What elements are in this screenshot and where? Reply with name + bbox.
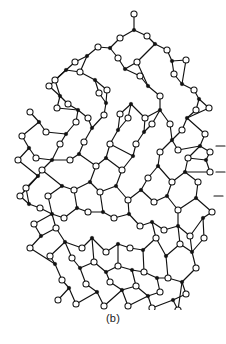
oxygen-atom <box>43 129 49 135</box>
oxygen-atom <box>179 127 185 133</box>
silicon-atom <box>116 242 120 246</box>
silicon-atom <box>146 84 150 88</box>
silicon-atom <box>27 146 31 150</box>
oxygen-atom <box>202 131 208 137</box>
silicon-atom <box>60 184 64 188</box>
silicon-atom <box>132 28 136 32</box>
oxygen-atom <box>125 115 131 121</box>
bond <box>42 170 62 186</box>
oxygen-atom <box>81 139 87 145</box>
oxygen-atom <box>183 291 189 297</box>
oxygen-atom <box>117 111 123 117</box>
oxygen-atom <box>61 215 67 221</box>
oxygen-atom <box>104 87 110 93</box>
silicon-atom <box>63 240 67 244</box>
oxygen-atom <box>37 205 43 211</box>
oxygen-atom <box>93 163 99 169</box>
oxygen-atom <box>17 193 23 199</box>
oxygen-atom <box>125 197 131 203</box>
oxygen-atom <box>137 73 143 79</box>
bond <box>137 44 155 62</box>
oxygen-atom <box>145 175 151 181</box>
oxygen-atom <box>141 269 147 275</box>
oxygen-atom <box>83 281 89 287</box>
oxygen-atom <box>133 141 139 147</box>
bond <box>18 160 38 176</box>
silicon-atom <box>198 144 202 148</box>
silicon-atom <box>76 108 80 112</box>
silicon-atom <box>146 294 150 298</box>
oxygen-atom <box>193 265 199 271</box>
silicon-atom <box>197 97 201 101</box>
oxygen-atom <box>107 141 113 147</box>
silicon-atom <box>204 158 208 162</box>
oxygen-atom <box>127 245 133 251</box>
oxygen-atom <box>167 121 173 127</box>
oxygen-atom <box>72 59 78 65</box>
oxygen-atom <box>115 55 121 61</box>
oxygen-atom <box>201 235 207 241</box>
silicon-atom <box>77 152 81 156</box>
silicon-atom <box>156 164 160 168</box>
oxygen-atom <box>107 279 113 285</box>
oxygen-atom <box>134 59 140 65</box>
silicon-atom <box>171 298 175 302</box>
silicon-atom <box>53 262 57 266</box>
oxygen-atom <box>157 93 163 99</box>
oxygen-atom-layer <box>15 11 215 310</box>
bond <box>110 144 133 156</box>
oxygen-atom <box>111 215 117 221</box>
oxygen-atom <box>137 223 143 229</box>
oxygen-atom <box>207 149 213 155</box>
oxygen-atom <box>125 303 131 309</box>
oxygen-atom <box>119 167 125 173</box>
oxygen-atom <box>115 263 121 269</box>
silicon-atom <box>67 286 71 290</box>
oxygen-atom <box>195 179 201 185</box>
oxygen-atom <box>171 71 177 77</box>
bond <box>182 60 186 84</box>
oxygen-atom <box>31 221 37 227</box>
oxygen-atom <box>73 301 79 307</box>
silicon-atom <box>170 138 174 142</box>
figure-caption: (b) <box>0 312 226 324</box>
oxygen-atom <box>85 209 91 215</box>
silicon-atom <box>75 206 79 210</box>
silicon-atom <box>108 46 112 50</box>
oxygen-atom <box>157 289 163 295</box>
silicon-atom <box>95 290 99 294</box>
oxygen-atom <box>101 112 107 118</box>
oxygen-atom <box>131 11 137 17</box>
silicon-atom <box>114 184 118 188</box>
silicon-atom <box>127 212 131 216</box>
silicon-atom <box>104 101 108 105</box>
silicon-atom <box>90 236 94 240</box>
silicon-atom <box>150 220 154 224</box>
oxygen-atom <box>79 245 85 251</box>
silicon-atom <box>50 212 54 216</box>
silicon-atom <box>88 180 92 184</box>
silicon-atom <box>120 288 124 292</box>
oxygen-atom <box>77 69 83 75</box>
bond <box>92 238 94 262</box>
silicon-atom <box>78 266 82 270</box>
silicon-atom <box>158 108 162 112</box>
oxygen-atom <box>45 193 51 199</box>
oxygen-atom <box>47 253 53 259</box>
bond <box>104 290 122 306</box>
oxygen-atom <box>85 115 91 121</box>
oxygen-atom <box>175 307 181 310</box>
oxygen-atom <box>55 297 61 303</box>
oxygen-atom <box>69 255 75 261</box>
oxygen-atom <box>59 277 65 283</box>
silicon-atom <box>155 276 159 280</box>
bond <box>20 176 38 196</box>
oxygen-atom <box>117 35 123 41</box>
silicon-atom <box>93 78 97 82</box>
oxygen-atom <box>71 187 77 193</box>
oxygen-atom <box>157 149 163 155</box>
oxygen-atom <box>191 87 197 93</box>
oxygen-atom <box>53 225 59 231</box>
oxygen-atom <box>165 275 171 281</box>
oxygen-atom <box>52 77 58 83</box>
